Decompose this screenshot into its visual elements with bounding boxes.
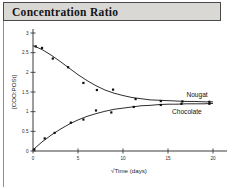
- x-axis-ticks: 05101520: [32, 149, 216, 162]
- x-tick-label: 0: [32, 156, 35, 161]
- data-point-chocolate: [44, 137, 46, 139]
- data-point-chocolate: [110, 111, 112, 113]
- data-point-chocolate: [33, 148, 35, 150]
- y-tick-label: 0: [26, 149, 29, 154]
- data-point-nougat: [41, 47, 43, 49]
- data-point-chocolate: [133, 106, 135, 108]
- data-point-chocolate: [95, 109, 97, 111]
- chart-axes: [33, 29, 227, 151]
- data-point-nougat: [52, 57, 54, 59]
- figure-panel: Concentration Ratio 05101520 00.511.522.…: [0, 0, 233, 189]
- y-tick-label: 2: [26, 70, 29, 75]
- data-point-chocolate: [208, 103, 210, 105]
- y-tick-label: 3: [26, 31, 29, 36]
- data-point-nougat: [135, 98, 137, 100]
- data-point-chocolate: [54, 132, 56, 134]
- data-point-nougat: [35, 45, 37, 47]
- chart-container: 05101520 00.511.522.53 NougatChocolate √…: [0, 21, 233, 189]
- y-tick-label: 2.5: [22, 50, 29, 55]
- chart-series-labels: NougatChocolate: [172, 91, 208, 115]
- data-point-nougat: [112, 89, 114, 91]
- page-title: Concentration Ratio: [4, 6, 118, 18]
- data-point-chocolate: [82, 118, 84, 120]
- concentration-ratio-chart: 05101520 00.511.522.53 NougatChocolate √…: [0, 21, 233, 189]
- y-tick-label: 1.5: [22, 90, 29, 95]
- y-axis-title: [COO:POSt]: [10, 75, 17, 109]
- data-point-nougat: [96, 89, 98, 91]
- data-point-nougat: [67, 66, 69, 68]
- figure-title-bar: Concentration Ratio: [3, 2, 221, 21]
- data-point-chocolate: [180, 103, 182, 105]
- x-tick-label: 10: [120, 156, 126, 161]
- y-tick-label: 1: [26, 109, 29, 114]
- x-tick-label: 15: [165, 156, 171, 161]
- data-point-nougat: [160, 100, 162, 102]
- x-tick-label: 5: [77, 156, 80, 161]
- x-tick-label: 20: [210, 156, 216, 161]
- y-tick-label: 0.5: [22, 129, 29, 134]
- data-point-chocolate: [160, 104, 162, 106]
- series-label-nougat: Nougat: [186, 91, 207, 99]
- data-point-nougat: [82, 82, 84, 84]
- data-point-nougat: [208, 101, 210, 103]
- data-point-nougat: [181, 100, 183, 102]
- series-label-chocolate: Chocolate: [172, 108, 202, 115]
- data-point-chocolate: [70, 122, 72, 124]
- x-axis-title: √Time (days): [111, 167, 147, 174]
